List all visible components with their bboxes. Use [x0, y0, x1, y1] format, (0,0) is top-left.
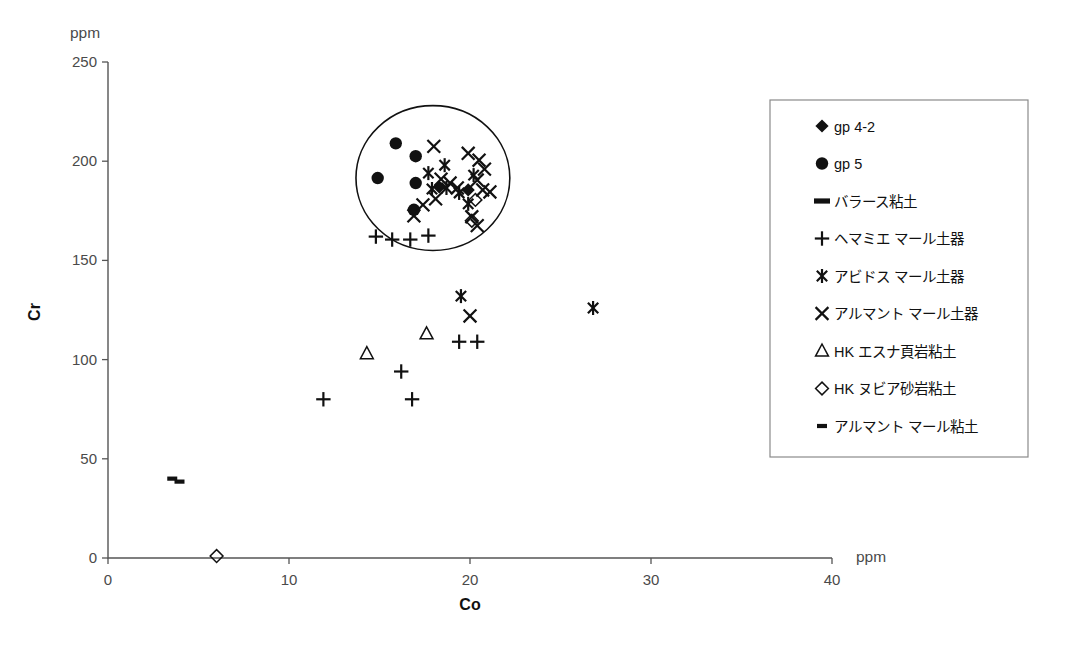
series-group	[371, 137, 421, 216]
data-point-cross	[429, 192, 442, 205]
y-tick-label: 50	[80, 450, 97, 467]
legend-item-label: アルマント マール粘土	[834, 419, 978, 435]
legend-item[interactable]: ヘマミエ マール土器	[815, 231, 965, 247]
data-point-plus	[421, 228, 435, 242]
series-group	[210, 193, 482, 562]
legend-item[interactable]: アルマント マール粘土	[817, 419, 978, 435]
legend-item-label: バラース粘土	[834, 194, 917, 210]
legend-item-label: アルマント マール土器	[834, 306, 979, 322]
x-tick-label: 10	[281, 571, 298, 588]
scatter-plot: 050100150200250010203040 ppmppmCrCo gp 4…	[0, 0, 1083, 645]
data-point-plus	[316, 392, 330, 406]
y-tick-label: 0	[89, 549, 97, 566]
y-tick-label: 150	[72, 251, 97, 268]
series-group	[167, 477, 184, 484]
data-point-filled-circle	[390, 137, 402, 149]
legend-marker-thick-dash	[814, 198, 830, 203]
data-point-plus	[405, 392, 419, 406]
axis-labels-layer: ppmppmCrCo	[26, 24, 886, 613]
y-tick-label: 100	[72, 351, 97, 368]
data-point-plus	[452, 335, 466, 349]
y-axis-title: Cr	[26, 303, 43, 321]
data-points-layer	[167, 137, 598, 562]
legend-item-label: gp 4-2	[834, 119, 875, 135]
legend-item[interactable]: HK エスナ頁岩粘土	[816, 344, 957, 360]
data-point-filled-circle	[410, 177, 422, 189]
legend-marker-filled-circle	[816, 157, 828, 169]
data-point-filled-circle	[371, 172, 383, 184]
legend-item[interactable]: アルマント マール土器	[816, 306, 979, 322]
legend[interactable]: gp 4-2gp 5バラース粘土ヘマミエ マール土器アビドス マール土器アルマン…	[770, 100, 1028, 457]
y-tick-label: 200	[72, 152, 97, 169]
data-point-asterisk	[463, 197, 473, 211]
series-group	[316, 228, 484, 406]
axes-layer: 050100150200250010203040	[72, 53, 840, 588]
legend-item-label: gp 5	[834, 156, 862, 172]
data-point-cross	[464, 310, 477, 323]
legend-item-label: ヘマミエ マール土器	[834, 231, 965, 247]
data-point-asterisk	[456, 289, 466, 303]
legend-marker-small-dash	[817, 424, 827, 428]
legend-item[interactable]: アビドス マール土器	[817, 269, 965, 285]
data-point-plus	[385, 232, 399, 246]
data-point-plus	[470, 335, 484, 349]
data-point-open-triangle	[360, 347, 373, 359]
data-point-cross	[417, 198, 430, 211]
series-group	[360, 327, 433, 359]
data-point-filled-circle	[410, 150, 422, 162]
x-tick-label: 20	[462, 571, 479, 588]
x-axis-unit: ppm	[856, 548, 886, 565]
data-point-cross	[462, 147, 475, 160]
chart-page: 050100150200250010203040 ppmppmCrCo gp 4…	[0, 0, 1083, 645]
data-point-cross	[427, 140, 440, 153]
data-point-plus	[403, 232, 417, 246]
x-tick-label: 40	[824, 571, 841, 588]
data-point-asterisk	[439, 158, 449, 172]
data-point-asterisk	[588, 301, 598, 315]
y-tick-label: 250	[72, 53, 97, 70]
data-point-open-diamond	[210, 550, 223, 563]
legend-item[interactable]: gp 5	[816, 156, 862, 172]
data-point-asterisk	[423, 166, 433, 180]
series-group	[407, 140, 496, 322]
x-tick-label: 30	[643, 571, 660, 588]
y-axis-unit: ppm	[70, 24, 100, 41]
data-point-small-dash	[174, 480, 184, 484]
legend-item-label: アビドス マール土器	[834, 269, 965, 285]
data-point-open-triangle	[420, 327, 433, 339]
data-point-plus	[394, 364, 408, 378]
x-axis-title: Co	[459, 596, 481, 613]
legend-item-label: HK ヌビア砂岩粘土	[834, 381, 956, 397]
x-tick-label: 0	[104, 571, 112, 588]
legend-item[interactable]: HK ヌビア砂岩粘土	[816, 381, 957, 397]
legend-item-label: HK エスナ頁岩粘土	[834, 344, 956, 360]
axis-lines	[108, 62, 832, 558]
